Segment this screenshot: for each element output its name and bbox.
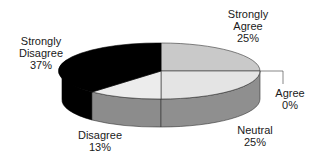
label-text: Disagree bbox=[70, 129, 130, 141]
label-value: 25% bbox=[218, 32, 278, 44]
label-value: 37% bbox=[11, 59, 71, 71]
label-neutral: Neutral 25% bbox=[225, 124, 285, 148]
label-strongly-agree: Strongly Agree 25% bbox=[218, 8, 278, 44]
slice-strongly-agree bbox=[161, 43, 260, 71]
agree-leader-line bbox=[260, 71, 283, 84]
label-agree: Agree 0% bbox=[265, 87, 312, 111]
label-text: Disagree bbox=[11, 47, 71, 59]
label-value: 0% bbox=[265, 99, 312, 111]
label-text: Neutral bbox=[225, 124, 285, 136]
label-text: Strongly bbox=[218, 8, 278, 20]
label-text: Strongly bbox=[11, 35, 71, 47]
label-disagree: Disagree 13% bbox=[70, 129, 130, 153]
label-strongly-disagree: Strongly Disagree 37% bbox=[11, 35, 71, 71]
label-value: 13% bbox=[70, 141, 130, 153]
label-value: 25% bbox=[225, 136, 285, 148]
label-text: Agree bbox=[218, 20, 278, 32]
label-text: Agree bbox=[265, 87, 312, 99]
